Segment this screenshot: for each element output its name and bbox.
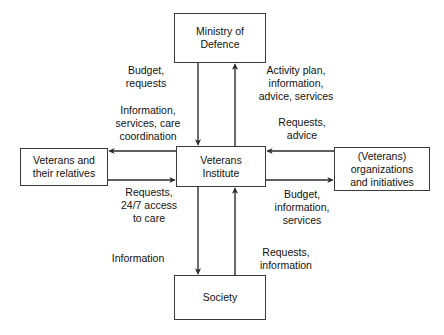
node-organizations-label: (Veterans) organizations and initiatives [347,150,417,189]
node-veterans-institute[interactable]: Veterans Institute [176,146,266,187]
edge-label-requests-advice: Requests, advice [258,116,346,142]
node-veterans-and-relatives[interactable]: Veterans and their relatives [20,148,108,186]
edge-label-budget-requests: Budget, requests [108,64,184,90]
edge-label-information-services-care: Information, services, care coordination [100,104,196,143]
edge-label-requests-information: Requests, information [240,246,332,272]
node-ministry-label: Ministry of Defence [193,25,247,51]
node-veterans-label: Veterans and their relatives [30,154,98,180]
edge-label-activity-plan: Activity plan, information, advice, serv… [244,64,348,103]
node-institute-label: Veterans Institute [197,154,244,180]
edge-label-requests-24-7-access: Requests, 24/7 access to care [106,186,192,225]
node-ministry-of-defence[interactable]: Ministry of Defence [174,13,266,63]
node-society[interactable]: Society [174,275,266,320]
edge-label-budget-information-services: Budget, information, services [256,188,348,227]
node-society-label: Society [200,291,240,304]
node-veterans-organizations[interactable]: (Veterans) organizations and initiatives [334,147,430,191]
edge-label-information: Information [98,252,178,265]
diagram-canvas: Ministry of Defence Veterans Institute V… [0,0,444,335]
